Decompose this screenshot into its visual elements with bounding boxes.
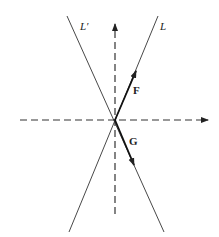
label-g: G [129,135,138,147]
line-l [69,16,158,232]
label-f: F [133,84,140,96]
diagram: L′ L F G [0,0,219,237]
label-l: L [159,20,166,32]
label-l-prime: L′ [79,20,89,32]
